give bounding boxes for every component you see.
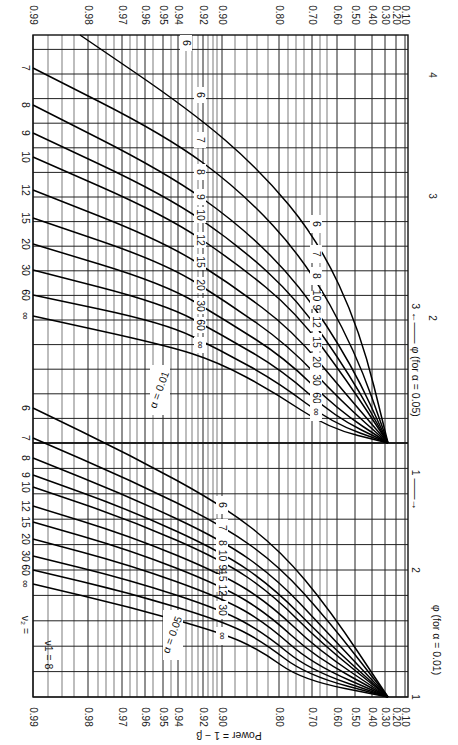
curve-alpha005-nu2-9 bbox=[33, 133, 388, 443]
nu2-label: 30 bbox=[20, 264, 32, 276]
nu2-label: 9 bbox=[20, 472, 32, 478]
nu2-label: 30 bbox=[195, 300, 207, 312]
nu2-label: 20 bbox=[311, 356, 323, 368]
nu2-label: 10 bbox=[20, 151, 32, 163]
axis-tick-labels: 0.990.990.980.980.970.970.960.960.950.95… bbox=[28, 5, 438, 727]
nu2-label: 15 bbox=[195, 256, 207, 268]
nu2-label: 12 bbox=[20, 500, 32, 512]
power-tick-bottom: 0.50 bbox=[350, 707, 361, 727]
power-tick-bottom: 0.92 bbox=[198, 707, 209, 727]
nu2-label: 60 bbox=[195, 319, 207, 331]
nu2-label: 9 bbox=[20, 130, 32, 136]
nu2-label: 9 bbox=[195, 194, 207, 200]
nu2-label: 6 bbox=[195, 92, 207, 98]
nu2-label: 10 9 bbox=[217, 550, 229, 571]
curve-alpha005-nu2-15 bbox=[33, 218, 388, 443]
nu2-label: 7 bbox=[195, 137, 207, 143]
phi-tick-alpha-0-05: 2 bbox=[427, 315, 438, 321]
curve-alpha005-nu2-8 bbox=[33, 105, 388, 443]
xlabel-alpha-0-01: φ (for α = 0.01) bbox=[431, 605, 443, 675]
ylabel-power: Power = 1 − β bbox=[196, 730, 262, 742]
nu1-label: ν1 = 8 bbox=[43, 641, 55, 670]
nu2-label: 6 bbox=[217, 502, 229, 508]
power-tick-bottom: 0.96 bbox=[140, 707, 151, 727]
curve-alpha001-nu2-9 bbox=[33, 475, 388, 697]
curve-alpha005-nu2-30 bbox=[33, 270, 388, 443]
curve-alpha001-nu2-7 bbox=[33, 438, 388, 697]
power-tick-top: 0.30 bbox=[380, 5, 391, 25]
curve-alpha005-nu2-20 bbox=[33, 244, 388, 443]
power-tick-top: 0.99 bbox=[28, 5, 39, 25]
power-tick-top: 0.40 bbox=[367, 5, 378, 25]
nu2-label: 8 bbox=[20, 102, 32, 108]
power-tick-bottom: 0.97 bbox=[117, 707, 128, 727]
nu2-label: 7 bbox=[217, 525, 229, 531]
nu2-label: 20 bbox=[195, 279, 207, 291]
curve-alpha005-nu2-6 bbox=[80, 35, 388, 443]
power-tick-bottom: 0.90 bbox=[217, 707, 228, 727]
nu2-label: 6 bbox=[311, 221, 323, 227]
nu2-label: 20 bbox=[20, 533, 32, 545]
nu2-label: 12 bbox=[311, 316, 323, 328]
nu2-label: 8 bbox=[195, 169, 207, 175]
power-tick-bottom: 0.98 bbox=[83, 707, 94, 727]
nu2-label: 60 bbox=[20, 289, 32, 301]
power-curves bbox=[33, 35, 388, 697]
xlabel-alpha-0-05: 3 ←—— φ (for α = 0.05) bbox=[410, 303, 422, 417]
phi-arrow: 1 ——→ bbox=[410, 470, 422, 510]
nu2-label: 60 bbox=[20, 564, 32, 576]
nu2-label: 30 bbox=[217, 604, 229, 616]
power-tick-bottom: 0.60 bbox=[332, 707, 343, 727]
power-tick-top: 0.60 bbox=[332, 5, 343, 25]
nu2-label: 10 bbox=[195, 209, 207, 221]
nu2-label: 10 9 bbox=[311, 290, 323, 311]
curve-alpha005-nu2-7 bbox=[33, 68, 388, 443]
power-tick-top: 0.98 bbox=[83, 5, 94, 25]
nu2-label: 7 bbox=[311, 251, 323, 257]
nu2-label: 7 bbox=[20, 435, 32, 441]
nu2-label: 10 bbox=[20, 481, 32, 493]
nu2-label: 15 12 bbox=[217, 570, 229, 596]
power-tick-top: 0.50 bbox=[350, 5, 361, 25]
nu2-label: 12 bbox=[20, 184, 32, 196]
power-tick-bottom: 0.70 bbox=[307, 707, 318, 727]
curve-alpha005-nu2-10 bbox=[33, 157, 388, 443]
curve-alpha001-nu2-10 bbox=[33, 487, 388, 697]
nu2-label: 7 bbox=[20, 65, 32, 71]
power-tick-top: 0.10 bbox=[400, 5, 411, 25]
power-tick-top: 0.95 bbox=[158, 5, 169, 25]
phi-tick-alpha-0-05: 4 bbox=[427, 72, 438, 78]
curve-alpha001-nu2-12 bbox=[33, 506, 388, 697]
power-tick-bottom: 0.40 bbox=[367, 707, 378, 727]
power-tick-bottom: 0.80 bbox=[274, 707, 285, 727]
nu2-label: ∞ bbox=[311, 408, 323, 416]
power-curve-chart: 789101215203060∞6789101215203060∞6678910… bbox=[0, 0, 458, 745]
nu2-label: 30 bbox=[20, 550, 32, 562]
power-tick-top: 0.96 bbox=[140, 5, 151, 25]
power-tick-top: 0.70 bbox=[307, 5, 318, 25]
nu2-label: 15 bbox=[20, 212, 32, 224]
nu2-label: 15 bbox=[311, 336, 323, 348]
power-tick-top: 0.92 bbox=[198, 5, 209, 25]
nu2-label: 20 bbox=[20, 238, 32, 250]
power-tick-bottom: 0.95 bbox=[158, 707, 169, 727]
nu2-label: 8 bbox=[20, 455, 32, 461]
nu2-label: 15 bbox=[20, 516, 32, 528]
power-tick-bottom: 0.99 bbox=[28, 707, 39, 727]
nu2-label: 60 bbox=[311, 392, 323, 404]
power-tick-top: 0.90 bbox=[217, 5, 228, 25]
nu2-label: ∞ bbox=[195, 341, 207, 349]
phi-tick-alpha-0-01: 2 bbox=[410, 567, 421, 573]
phi-tick-alpha-0-05: 3 bbox=[427, 193, 438, 199]
nu2-label: 6 bbox=[20, 405, 32, 411]
nu2-label: 8 bbox=[217, 540, 229, 546]
power-tick-top: 0.97 bbox=[117, 5, 128, 25]
power-tick-bottom: 0.10 bbox=[400, 707, 411, 727]
nu2-label: 30 bbox=[311, 374, 323, 386]
curve-alpha005-nu2-∞ bbox=[33, 316, 388, 443]
power-tick-top: 0.94 bbox=[173, 5, 184, 25]
nu2-label: ∞ bbox=[20, 312, 32, 320]
nu2-label: 12 bbox=[195, 234, 207, 246]
power-tick-bottom: 0.94 bbox=[173, 707, 184, 727]
nu2-label: 8 bbox=[311, 273, 323, 279]
